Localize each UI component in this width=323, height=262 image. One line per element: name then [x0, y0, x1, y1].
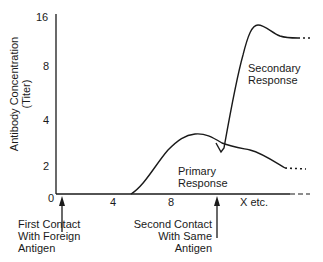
primary-response-label-line2: Response — [178, 177, 228, 189]
secondary-response-curve — [216, 25, 298, 152]
second-contact-label-line2: With Same — [128, 230, 212, 242]
y-tick-8: 8 — [43, 60, 49, 72]
second-contact-label-line3: Antigen — [128, 242, 212, 254]
second-contact-label-line1: Second Contact — [128, 218, 212, 230]
primary-response-label-line1: Primary — [178, 165, 216, 177]
first-contact-label-line1: First Contact — [18, 218, 80, 230]
first-contact-label-line2: With Foreign — [18, 230, 80, 242]
y-axis-title-unit: (Titer) — [20, 24, 32, 164]
secondary-response-label-line2: Response — [248, 74, 298, 86]
x-tick-4: 4 — [110, 196, 116, 208]
y-tick-0: 0 — [48, 192, 54, 204]
secondary-response-label-line1: Secondary — [248, 62, 301, 74]
y-tick-4: 4 — [43, 114, 49, 126]
primary-response-dotted-tail — [285, 168, 306, 169]
second-contact-arrow — [214, 196, 220, 238]
y-axis-title: Antibody Concentration (Titer) — [8, 24, 32, 164]
y-tick-16: 16 — [36, 11, 48, 23]
y-axis-title-main: Antibody Concentration — [8, 24, 20, 164]
x-tick-8: 8 — [168, 196, 174, 208]
first-contact-label-line3: Antigen — [18, 242, 55, 254]
x-tick-etc: X etc. — [240, 196, 268, 208]
y-tick-2: 2 — [43, 160, 49, 172]
